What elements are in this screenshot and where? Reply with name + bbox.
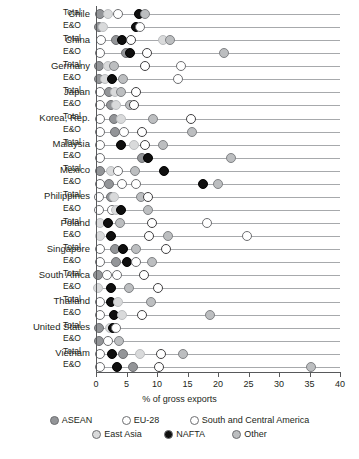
- row-connector-line: [96, 302, 340, 303]
- data-row: [96, 152, 340, 165]
- x-tick-label: 35: [298, 379, 322, 389]
- legend-swatch-eu-icon: [122, 416, 131, 425]
- data-point-asean: [118, 349, 128, 359]
- row-connector-line: [96, 119, 340, 120]
- data-point-sca: [139, 270, 149, 280]
- x-tick: [279, 372, 280, 377]
- data-point-other: [147, 257, 157, 267]
- x-tick-label: 25: [237, 379, 261, 389]
- data-point-other: [146, 297, 156, 307]
- data-point-sca: [140, 140, 150, 150]
- data-point-eu: [131, 179, 141, 189]
- series-label-eo: E&O: [63, 308, 81, 317]
- data-point-nafta: [198, 179, 208, 189]
- row-connector-line: [96, 79, 340, 80]
- data-point-other: [219, 48, 229, 58]
- series-label-eo: E&O: [63, 177, 81, 186]
- legend-label: EU-28: [134, 415, 160, 425]
- legend-label: Other: [244, 429, 267, 439]
- row-connector-line: [96, 341, 340, 342]
- row-connector-line: [96, 158, 340, 159]
- data-point-other: [306, 362, 316, 372]
- data-point-other: [115, 218, 125, 228]
- chart-container: TotalChileE&OTotalChinaE&OTotalGermanyE&…: [0, 0, 359, 459]
- data-point-eu: [119, 127, 129, 137]
- legend-item-asean[interactable]: ASEAN: [50, 413, 122, 427]
- data-point-nafta: [112, 362, 122, 372]
- legend-item-east[interactable]: East Asia: [92, 427, 164, 441]
- data-point-other: [143, 205, 153, 215]
- row-connector-line: [96, 275, 340, 276]
- data-point-eu: [96, 35, 106, 45]
- data-point-east: [98, 22, 108, 32]
- legend-row-bottom: East AsiaNAFTAOther: [0, 427, 359, 441]
- data-point-nafta: [106, 231, 116, 241]
- data-point-sca: [129, 100, 139, 110]
- data-point-other: [148, 114, 158, 124]
- x-tick: [218, 372, 219, 377]
- row-connector-line: [96, 354, 340, 355]
- data-point-sca: [137, 310, 147, 320]
- data-point-sca: [131, 87, 141, 97]
- data-point-eu: [202, 218, 212, 228]
- data-point-sca: [140, 61, 150, 71]
- data-point-nafta: [116, 140, 126, 150]
- data-point-eu: [242, 231, 252, 241]
- x-tick: [188, 372, 189, 377]
- data-point-sca: [142, 48, 152, 58]
- data-row: [96, 60, 340, 73]
- data-point-eu: [113, 166, 123, 176]
- data-point-eu: [113, 9, 123, 19]
- legend-swatch-nafta-icon: [164, 430, 173, 439]
- data-point-other: [187, 127, 197, 137]
- data-row: [96, 99, 340, 112]
- data-point-nafta: [117, 35, 127, 45]
- data-point-east: [109, 192, 119, 202]
- x-tick-label: 40: [328, 379, 352, 389]
- data-point-other: [158, 140, 168, 150]
- country-label: Vietnam: [55, 348, 90, 358]
- x-axis-title: % of gross exports: [0, 394, 359, 404]
- data-point-nafta: [116, 205, 126, 215]
- legend-item-eu[interactable]: EU-28: [122, 413, 190, 427]
- data-row: [96, 322, 340, 335]
- data-point-other: [130, 166, 140, 176]
- data-point-eu: [103, 336, 113, 346]
- data-point-eu: [131, 257, 141, 267]
- data-point-other: [165, 35, 175, 45]
- country-label: China: [65, 35, 90, 45]
- row-connector-line: [96, 14, 340, 15]
- data-row: [96, 282, 340, 295]
- data-point-sca: [144, 231, 154, 241]
- data-point-east: [113, 297, 123, 307]
- legend-item-other[interactable]: Other: [232, 427, 267, 441]
- data-row: [96, 47, 340, 60]
- series-label-eo: E&O: [63, 73, 81, 82]
- data-point-sca: [126, 35, 136, 45]
- data-point-sca: [143, 192, 153, 202]
- data-point-asean: [111, 257, 121, 267]
- data-row: [96, 309, 340, 322]
- country-label: South Africa: [39, 270, 90, 280]
- data-row: [96, 296, 340, 309]
- legend-item-sca[interactable]: South and Central America: [190, 413, 310, 427]
- data-point-other: [109, 61, 119, 71]
- data-row: [96, 139, 340, 152]
- legend-item-nafta[interactable]: NAFTA: [164, 427, 232, 441]
- data-row: [96, 8, 340, 21]
- data-point-nafta: [118, 244, 128, 254]
- data-point-sca: [156, 349, 166, 359]
- x-tick-label: 15: [176, 379, 200, 389]
- row-connector-line: [96, 210, 340, 211]
- y-axis-line: [96, 6, 97, 372]
- data-point-nafta: [125, 48, 135, 58]
- data-row: [96, 217, 340, 230]
- series-label-eo: E&O: [63, 360, 81, 369]
- x-tick: [249, 372, 250, 377]
- data-row: [96, 34, 340, 47]
- data-row: [96, 86, 340, 99]
- data-point-nafta: [106, 283, 116, 293]
- series-label-eo: E&O: [63, 204, 81, 213]
- data-point-east: [129, 140, 139, 150]
- data-row: [96, 165, 340, 178]
